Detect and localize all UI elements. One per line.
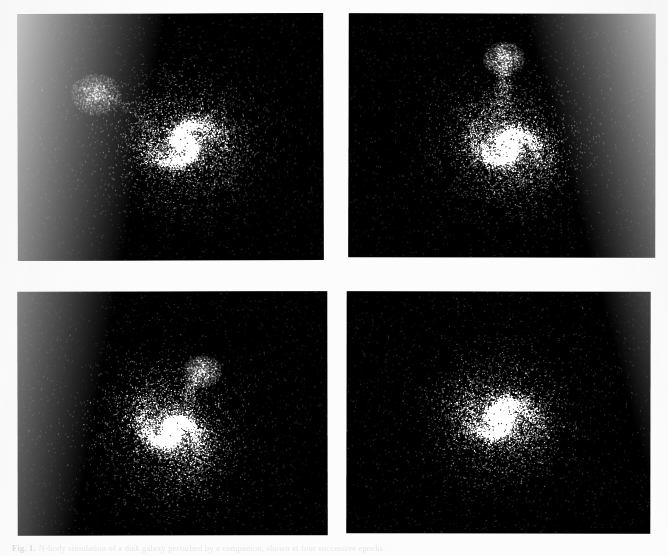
simulation-panel-top-right <box>349 14 656 258</box>
figure-sheet: Fig. 1.N-body simulation of a disk galax… <box>0 0 668 556</box>
figure-caption-label: Fig. 1. <box>12 543 36 553</box>
simulation-panel-top-left <box>18 14 324 261</box>
galaxy-particle-plot-4 <box>347 292 650 533</box>
figure-caption: Fig. 1.N-body simulation of a disk galax… <box>12 543 652 555</box>
galaxy-particle-plot-3 <box>18 292 327 536</box>
simulation-panel-bottom-right <box>347 292 650 533</box>
galaxy-particle-plot-1 <box>18 14 324 261</box>
simulation-panel-bottom-left <box>18 292 327 536</box>
figure-caption-text: N-body simulation of a disk galaxy pertu… <box>39 543 386 553</box>
galaxy-particle-plot-2 <box>349 14 656 258</box>
